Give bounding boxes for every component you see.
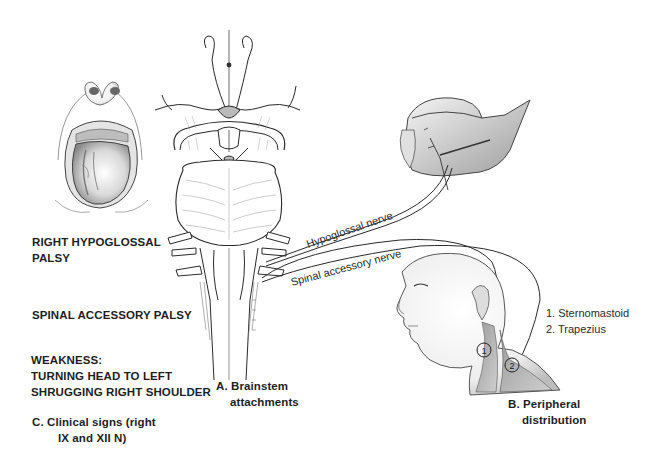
- panel-c-caption-line2: IX and XII N): [32, 430, 156, 446]
- hypoglossal-palsy-line1: RIGHT HYPOGLOSSAL: [32, 234, 161, 250]
- sternomastoid-marker: 1: [481, 346, 486, 356]
- hypoglossal-palsy-line2: PALSY: [32, 250, 161, 266]
- weakness-turning-head: TURNING HEAD TO LEFT: [31, 368, 211, 384]
- brainstem-illustration: [155, 30, 300, 380]
- tongue-muscles-illustration: [400, 98, 530, 190]
- hypoglossal-nerve-label: Hypoglossal nerve: [305, 209, 394, 250]
- legend-sternomastoid: 1. Sternomastoid: [546, 305, 629, 321]
- panel-a-caption-line2: attachments: [216, 394, 299, 410]
- panel-a-caption-line1: A. Brainstem: [216, 378, 299, 394]
- trapezius-marker: 2: [509, 361, 514, 371]
- weakness-heading: WEAKNESS:: [31, 352, 211, 368]
- hypoglossal-nerve-path: [266, 165, 452, 266]
- spinal-accessory-nerve-label: Spinal accessory nerve: [289, 247, 402, 288]
- hypoglossal-palsy-label: RIGHT HYPOGLOSSAL PALSY: [32, 234, 161, 266]
- legend-trapezius: 2. Trapezius: [546, 321, 629, 337]
- panel-b-caption-line2: distribution: [508, 412, 586, 428]
- weakness-shrugging-shoulder: SHRUGGING RIGHT SHOULDER: [31, 384, 211, 400]
- tongue-deviation-illustration: [55, 82, 148, 213]
- figure-canvas: Hypoglossal nerve Spinal accessory nerve…: [0, 0, 656, 460]
- spinal-accessory-palsy-label: SPINAL ACCESSORY PALSY: [32, 307, 192, 323]
- panel-c-caption: C. Clinical signs (right IX and XII N): [32, 414, 156, 446]
- panel-c-caption-line1: C. Clinical signs (right: [32, 414, 156, 430]
- weakness-label: WEAKNESS: TURNING HEAD TO LEFT SHRUGGING…: [31, 352, 211, 400]
- panel-a-caption: A. Brainstem attachments: [216, 378, 299, 410]
- panel-b-caption-line1: B. Peripheral: [508, 396, 586, 412]
- head-neck-illustration: 1 2: [397, 253, 560, 395]
- panel-b-caption: B. Peripheral distribution: [508, 396, 586, 428]
- muscle-legend: 1. Sternomastoid 2. Trapezius: [546, 305, 629, 337]
